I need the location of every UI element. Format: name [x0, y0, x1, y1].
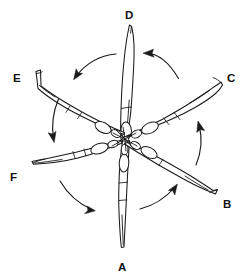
limb-label-a: A: [118, 262, 127, 274]
limb-a-joint-line-2: [119, 200, 127, 201]
arrow-e-to-f: [48, 99, 58, 143]
limb-e-segments: [36, 70, 125, 135]
figure-canvas: A B C D E F: [0, 0, 245, 280]
arrow-f-to-a-arc: [60, 181, 92, 210]
arrow-c-to-d-head: [143, 49, 154, 57]
limb-label-b: B: [223, 199, 232, 211]
limb-a: [119, 141, 130, 248]
arrow-a-to-b-head: [168, 184, 177, 195]
limb-label-d: D: [125, 10, 134, 22]
arrow-f-to-a: [60, 181, 95, 214]
arrow-c-to-d-arc: [147, 53, 179, 79]
limb-c-segments: [127, 82, 223, 137]
limb-label-c: C: [227, 73, 236, 85]
limb-c-tip-hook: [213, 78, 222, 84]
limb-b-segments: [125, 143, 218, 195]
arrow-e-to-f-head: [48, 131, 56, 142]
limb-d: [120, 25, 134, 148]
limb-e: [36, 70, 125, 139]
arrow-d-to-e: [74, 54, 116, 80]
limb-b-shaft-crease: [185, 176, 208, 190]
arrow-a-to-b: [140, 184, 177, 209]
limb-c: [127, 78, 223, 140]
limb-b: [125, 140, 218, 194]
limb-label-f: F: [10, 172, 17, 184]
arrow-c-to-d: [143, 49, 179, 78]
limb-label-e: E: [13, 73, 21, 85]
arrow-b-to-c: [196, 121, 205, 165]
limb-f: [32, 139, 122, 164]
limb-diagram-svg: [0, 0, 245, 280]
